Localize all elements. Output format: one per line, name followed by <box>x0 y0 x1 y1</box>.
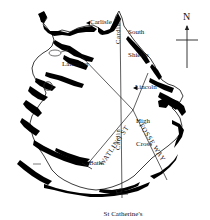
inland-water-mark <box>49 50 61 56</box>
coast-fill-pembroke <box>20 118 40 136</box>
place-label-carlisle: Carlisle <box>90 19 112 27</box>
map-graphic <box>0 0 210 220</box>
coast-fill-solway <box>38 11 47 23</box>
compass-rose <box>176 25 198 68</box>
compass-arrowhead-icon <box>185 25 189 30</box>
route-line-watling-nw <box>82 57 133 110</box>
place-label-south-shields: South Shields <box>128 14 149 74</box>
route-line-meridian <box>120 18 122 198</box>
compass-north-label: N <box>183 11 190 22</box>
place-label-st-catherines-point: St Catherine's Point <box>92 196 154 220</box>
place-label-lancaster: Lancaster <box>62 61 89 69</box>
place-label-south-shields-line2: Shields <box>128 52 149 60</box>
route-lines <box>82 18 167 198</box>
place-label-south-shields-line1: South <box>128 29 149 37</box>
coast-fill-north-west <box>43 25 97 36</box>
coast-fill-morecambe <box>53 40 94 62</box>
road-label-cardin-north: Cardin <box>114 23 121 44</box>
place-label-lincoln: Lincoln <box>135 84 157 92</box>
coast-fill-east-anglia <box>172 120 184 148</box>
map-figure: Carlisle South Shields Lancaster Lincoln… <box>0 0 210 220</box>
place-label-st-catherines-line1: St Catherine's <box>92 211 154 219</box>
coast-fill-yorkshire <box>150 64 162 80</box>
